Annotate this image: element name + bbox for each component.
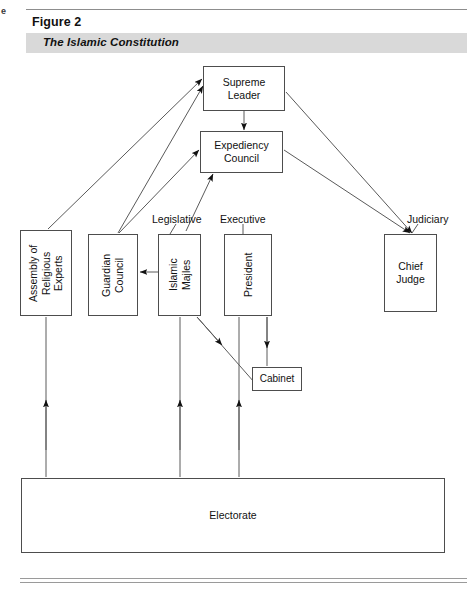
edge-majles-to-cabinet-arrow [197, 317, 222, 345]
node-electorate[interactable]: Electorate [21, 478, 445, 553]
node-assembly-of-religious-experts-label: Assembly of Religious Experts [27, 244, 65, 301]
edge-assembly-to-supreme [48, 79, 202, 229]
caption-executive: Executive [220, 213, 266, 225]
node-electorate-label: Electorate [209, 509, 256, 522]
constitution-diagram: Supreme Leader Expediency Council Assemb… [0, 0, 475, 595]
tick-judiciary [412, 224, 418, 233]
node-president[interactable]: President [224, 234, 272, 316]
caption-judiciary: Judiciary [407, 213, 448, 225]
node-supreme-leader[interactable]: Supreme Leader [203, 66, 285, 111]
node-chief-judge[interactable]: Chief Judge [384, 234, 437, 312]
footer-divider-bottom [20, 582, 467, 583]
node-islamic-majles[interactable]: Islamic Majles [158, 234, 201, 316]
node-guardian-council[interactable]: Guardian Council [88, 234, 138, 316]
node-cabinet[interactable]: Cabinet [252, 367, 302, 391]
node-supreme-leader-label: Supreme Leader [223, 76, 266, 102]
node-islamic-majles-label: Islamic Majles [167, 259, 192, 292]
node-cabinet-label: Cabinet [260, 373, 294, 385]
tick-legislative [170, 224, 176, 234]
caption-legislative: Legislative [152, 213, 202, 225]
footer-divider-top [20, 578, 467, 579]
node-assembly-of-religious-experts[interactable]: Assembly of Religious Experts [20, 230, 72, 316]
edge-expediency-to-chief-judge [284, 150, 410, 233]
node-president-label: President [242, 253, 255, 297]
node-expediency-council-label: Expediency Council [214, 139, 268, 165]
node-guardian-council-label: Guardian Council [100, 253, 125, 296]
edge-supreme-to-chief-judge [286, 92, 412, 233]
node-expediency-council[interactable]: Expediency Council [200, 131, 283, 173]
node-chief-judge-label: Chief Judge [396, 260, 425, 286]
